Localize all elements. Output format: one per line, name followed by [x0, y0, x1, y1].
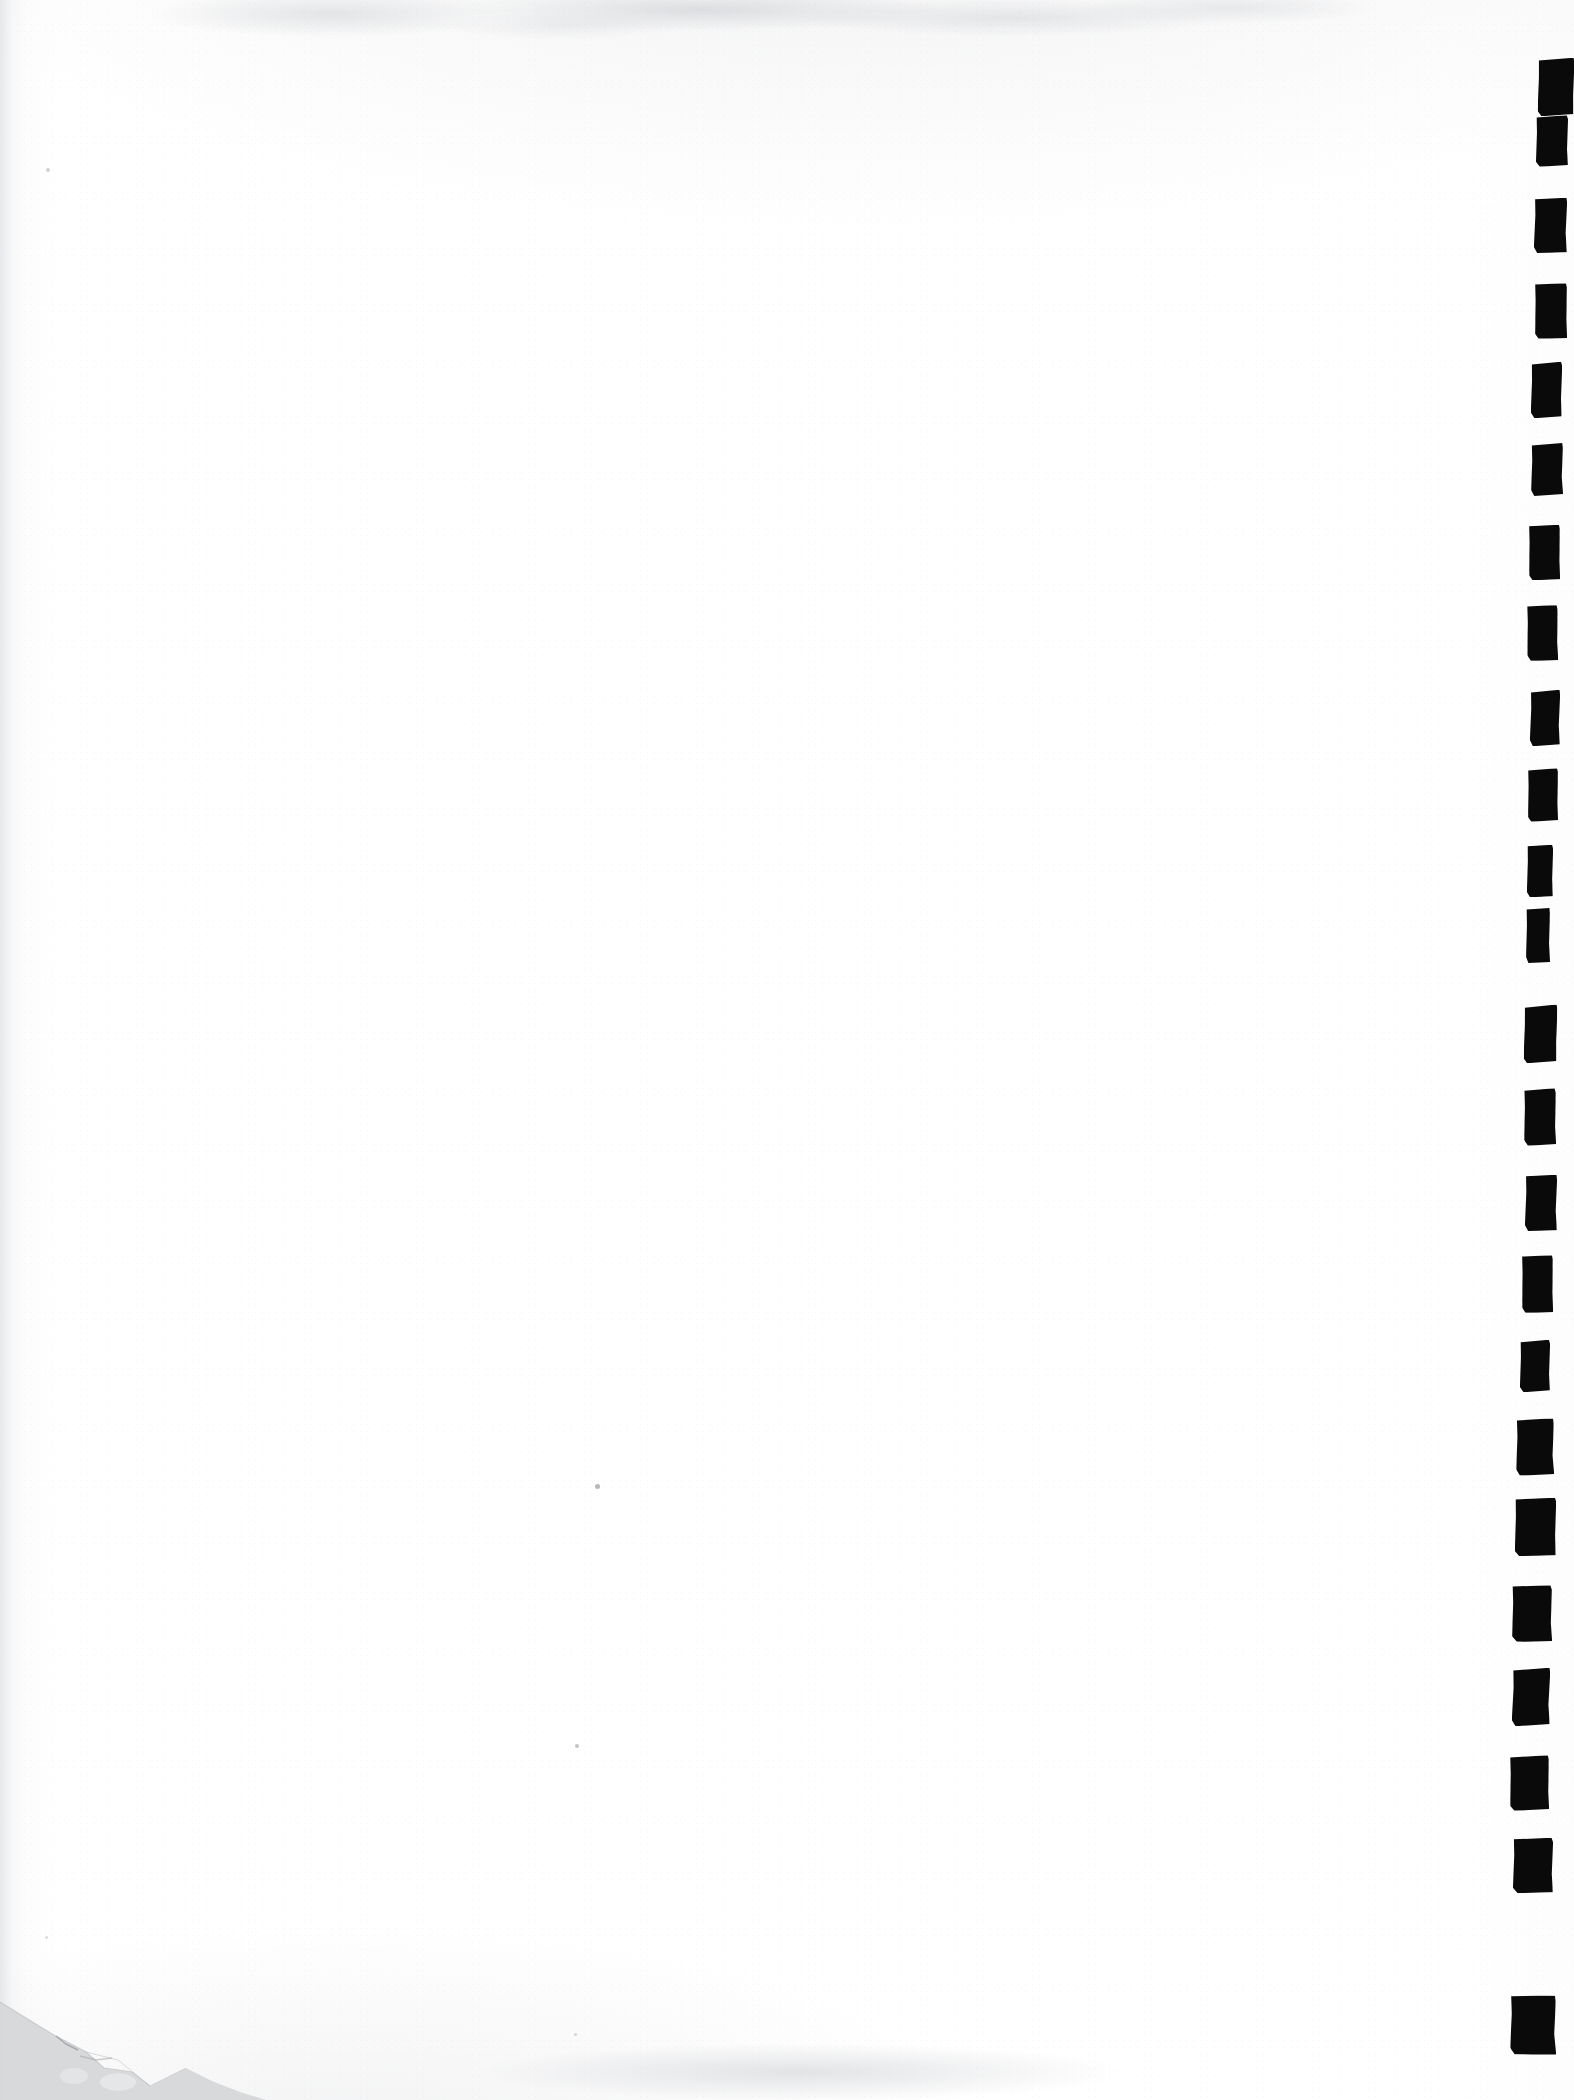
index-tab-mark — [1530, 690, 1560, 746]
index-tab-mark — [1510, 1994, 1556, 2055]
index-tab-mark — [1527, 845, 1553, 898]
index-tab-mark — [1525, 1175, 1557, 1231]
index-tab-mark — [1527, 605, 1559, 661]
index-tab-mark — [1520, 1340, 1550, 1392]
index-tab-mark — [1524, 1088, 1556, 1147]
index-tab-mark — [1516, 1418, 1554, 1477]
index-tab-mark — [1534, 198, 1567, 253]
index-tab-mark — [1515, 1498, 1556, 1557]
index-tab-mark — [1528, 768, 1558, 822]
index-tab-mark — [1536, 115, 1568, 167]
index-tab-mark — [1526, 908, 1550, 963]
index-tab-mark — [1537, 58, 1574, 117]
index-tab-mark — [1535, 283, 1567, 339]
index-tab-mark — [1531, 443, 1563, 496]
index-tab-mark — [1512, 1668, 1551, 1727]
index-tab-mark — [1531, 362, 1562, 418]
paper-background — [0, 0, 1574, 2100]
index-tab-mark — [1513, 1838, 1553, 1893]
scanned-page — [0, 0, 1574, 2100]
index-tab-mark — [1510, 1755, 1549, 1812]
index-tab-mark — [1512, 1585, 1552, 1642]
index-tab-mark — [1523, 1005, 1557, 1064]
index-tab-mark — [1522, 1255, 1553, 1313]
index-tab-mark — [1529, 525, 1560, 580]
